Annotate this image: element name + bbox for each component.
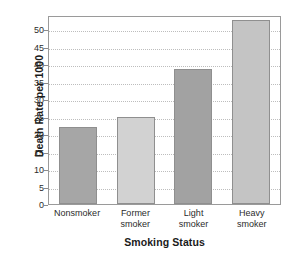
- y-tick-mark: [44, 83, 48, 84]
- bar-former-smoker[interactable]: [117, 117, 155, 205]
- bars-group: [49, 17, 280, 204]
- bar-slot: [49, 17, 107, 204]
- x-tick-label-line1: Nonsmoker: [54, 208, 100, 218]
- y-tick-mark: [44, 100, 48, 101]
- bar-heavy-smoker[interactable]: [232, 20, 270, 204]
- y-tick-label: 5: [22, 183, 44, 193]
- x-tick-label: Formersmoker: [106, 208, 164, 230]
- x-tick-label: Lightsmoker: [165, 208, 223, 230]
- y-tick-label: 50: [22, 25, 44, 35]
- x-axis-tick-labels: NonsmokerFormersmokerLightsmokerHeavysmo…: [48, 208, 281, 230]
- y-tick-label: 10: [22, 165, 44, 175]
- y-tick-mark: [44, 30, 48, 31]
- y-tick-label: 35: [22, 78, 44, 88]
- bar-slot: [165, 17, 223, 204]
- x-axis-title: Smoking Status: [48, 236, 281, 248]
- y-axis-tick-labels: 05101520253035404550: [22, 16, 44, 205]
- y-tick-mark: [44, 153, 48, 154]
- y-tick-mark: [44, 170, 48, 171]
- bar-nonsmoker[interactable]: [59, 127, 97, 204]
- x-tick-label-line2: smoker: [165, 219, 223, 230]
- y-tick-mark: [44, 205, 48, 206]
- y-tick-mark: [44, 188, 48, 189]
- y-tick-mark: [44, 65, 48, 66]
- y-tick-label: 25: [22, 113, 44, 123]
- y-tick-label: 20: [22, 130, 44, 140]
- x-tick-label-line2: smoker: [106, 219, 164, 230]
- bar-slot: [107, 17, 165, 204]
- y-tick-label: 45: [22, 43, 44, 53]
- y-tick-label: 0: [22, 200, 44, 210]
- bar-light-smoker[interactable]: [174, 69, 212, 204]
- bar-chart: Death Rate per 1000 05101520253035404550…: [0, 0, 304, 261]
- y-tick-label: 30: [22, 95, 44, 105]
- x-tick-label-line1: Former: [121, 208, 150, 218]
- x-tick-label: Nonsmoker: [48, 208, 106, 230]
- x-tick-label-line1: Heavy: [239, 208, 265, 218]
- y-tick-label: 40: [22, 60, 44, 70]
- y-tick-mark: [44, 48, 48, 49]
- bar-slot: [222, 17, 280, 204]
- y-tick-mark: [44, 118, 48, 119]
- y-tick-mark: [44, 135, 48, 136]
- x-tick-label-line2: smoker: [223, 219, 281, 230]
- x-tick-label-line1: Light: [184, 208, 204, 218]
- plot-area: [48, 16, 281, 205]
- x-tick-label: Heavysmoker: [223, 208, 281, 230]
- y-tick-label: 15: [22, 148, 44, 158]
